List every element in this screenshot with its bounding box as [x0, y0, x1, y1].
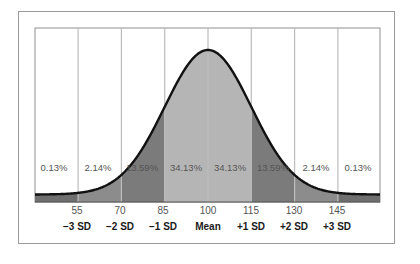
sd-label: +1 SD [237, 221, 265, 232]
x-tick-label: 145 [329, 205, 346, 216]
x-tick-labels: 55 70 85 100 115 130 145 [71, 205, 345, 216]
pct-label: 0.13% [41, 162, 68, 173]
x-tick-label: 55 [71, 205, 83, 216]
x-tick-label: 115 [243, 205, 259, 216]
pct-label: 2.14% [85, 162, 112, 173]
bell-curve-chart: 0.13% 2.14% 13.59% 34.13% 34.13% 13.59% … [0, 0, 420, 264]
pct-label: 0.13% [345, 162, 372, 173]
x-tick-label: 100 [200, 205, 217, 216]
sd-label: +2 SD [280, 221, 308, 232]
sd-labels: −3 SD −2 SD −1 SD Mean +1 SD +2 SD +3 SD [63, 221, 351, 232]
pct-label: 2.14% [303, 162, 330, 173]
sd-label: Mean [195, 221, 221, 232]
pct-label: 13.59% [257, 162, 290, 173]
pct-label: 34.13% [170, 162, 203, 173]
sd-label: −3 SD [63, 221, 91, 232]
sd-label: −2 SD [106, 221, 134, 232]
pct-label: 34.13% [214, 162, 247, 173]
sd-label: −1 SD [149, 221, 177, 232]
pct-label: 13.59% [126, 162, 159, 173]
x-tick-label: 130 [286, 205, 303, 216]
sd-label: +3 SD [323, 221, 351, 232]
x-tick-label: 70 [114, 205, 126, 216]
x-tick-label: 85 [157, 205, 169, 216]
